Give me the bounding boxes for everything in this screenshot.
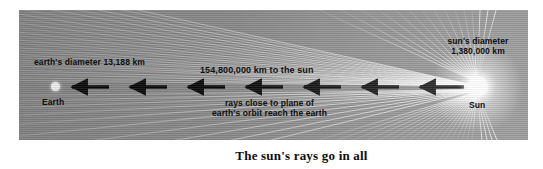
figure-caption: The sun's rays go in all	[0, 148, 543, 164]
rays-plane-note-line-2: earth's orbit reach the earth	[212, 108, 327, 118]
sun-diameter-label: sun's diameter 1,380,000 km	[433, 36, 523, 56]
sun-diameter-line-2: 1,380,000 km	[433, 46, 523, 56]
diagram-panel: earth's diameter 13,188 km Earth 154,800…	[19, 10, 528, 140]
sun-body	[467, 76, 488, 97]
earth-diameter-label: earth's diameter 13,188 km	[34, 57, 145, 67]
earth-name-label: Earth	[42, 97, 64, 107]
rays-plane-note-line-1: rays close to plane of	[212, 98, 327, 108]
earth-body	[51, 82, 60, 91]
figure-root: earth's diameter 13,188 km Earth 154,800…	[0, 0, 543, 169]
sun-diameter-line-1: sun's diameter	[433, 36, 523, 46]
distance-to-sun-label: 154,800,000 km to the sun	[200, 65, 314, 76]
sun-name-label: Sun	[469, 100, 485, 110]
rays-plane-note: rays close to plane of earth's orbit rea…	[212, 98, 327, 118]
